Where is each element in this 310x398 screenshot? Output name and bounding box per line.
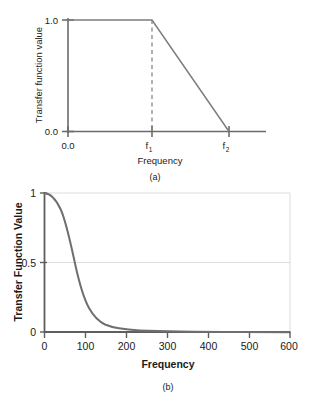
panel-a-y-axis-title: Transfer function value xyxy=(33,27,44,123)
panel-a-ytick-label-bottom: 0.0 xyxy=(45,126,58,137)
figure-background xyxy=(0,0,310,398)
panel-a-ytick-label-top: 1.0 xyxy=(45,15,58,26)
panel-b-xtick-label-100: 100 xyxy=(77,340,95,352)
panel-a-caption: (a) xyxy=(150,172,161,182)
panel-b-y-axis-title: Transfer Function Value xyxy=(12,202,24,321)
panel-b-xtick-label-200: 200 xyxy=(118,340,136,352)
panel-b-xtick-label-400: 400 xyxy=(200,340,218,352)
panel-b-x-axis-title: Frequency xyxy=(141,358,194,370)
figure-canvas: 1.0 0.0 0.0 f1 f2 Frequency Transfer fun… xyxy=(0,0,310,398)
panel-a-x-axis-title: Frequency xyxy=(138,155,183,166)
panel-a-xtick-label-0: 0.0 xyxy=(61,140,74,151)
panel-a-xtick-f2-subscript: 2 xyxy=(226,146,230,153)
panel-b-xtick-label-0: 0 xyxy=(42,340,48,352)
panel-b-xtick-label-600: 600 xyxy=(280,340,298,352)
figure-transfer-functions: 1.0 0.0 0.0 f1 f2 Frequency Transfer fun… xyxy=(0,0,310,398)
panel-b-ytick-label-0: 0 xyxy=(30,326,36,338)
panel-b-ytick-label-1: 1 xyxy=(30,187,36,199)
panel-a-xtick-f1-subscript: 1 xyxy=(149,146,153,153)
panel-b-xtick-label-300: 300 xyxy=(159,340,177,352)
panel-b-caption: (b) xyxy=(163,382,174,392)
panel-b-xtick-label-500: 500 xyxy=(241,340,259,352)
